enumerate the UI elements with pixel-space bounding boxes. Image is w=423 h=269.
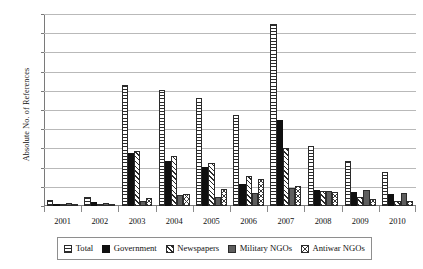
bar-group-2004: 2004: [156, 14, 193, 206]
legend-swatch-icon: [166, 245, 174, 253]
bar-antiwar-ngos-2010: [407, 201, 413, 206]
legend-label: Government: [114, 244, 157, 253]
bar-group-2008: 2008: [304, 14, 341, 206]
plot-wrapper: 500450400350300250200150100500 200120022…: [44, 14, 416, 206]
bars: [342, 14, 379, 206]
bar-chart: Absolute No. of References 5004504003503…: [0, 0, 423, 269]
x-tick-label-2008: 2008: [304, 217, 341, 226]
bar-antiwar-ngos-2008: [332, 192, 338, 206]
legend-label: Antiwar NGOs: [313, 244, 365, 253]
bar-group-2009: 2009: [342, 14, 379, 206]
bar-group-2006: 2006: [230, 14, 267, 206]
x-tick-sep: [230, 206, 231, 212]
x-tick-sep: [193, 206, 194, 212]
bar-group-2007: 2007: [267, 14, 304, 206]
legend-swatch-icon: [102, 245, 110, 253]
y-axis-title: Absolute No. of References: [22, 35, 31, 195]
x-tick-sep: [118, 206, 119, 212]
bars: [81, 14, 118, 206]
plot-area: 500450400350300250200150100500 200120022…: [44, 14, 416, 206]
legend-label: Military NGOs: [240, 244, 292, 253]
bar-antiwar-ngos-2006: [258, 179, 264, 206]
bar-antiwar-ngos-2002: [109, 204, 115, 206]
bars: [118, 14, 155, 206]
x-tick-label-2006: 2006: [230, 217, 267, 226]
legend-item-military-ngos[interactable]: Military NGOs: [228, 244, 292, 253]
x-tick-label-2002: 2002: [81, 217, 118, 226]
x-tick-sep: [156, 206, 157, 212]
bars: [230, 14, 267, 206]
bar-groups: 2001200220032004200520062007200820092010: [44, 14, 416, 206]
x-tick-sep: [415, 206, 416, 212]
bars: [304, 14, 341, 206]
bar-group-2005: 2005: [193, 14, 230, 206]
x-tick-label-2005: 2005: [193, 217, 230, 226]
x-tick-sep: [81, 206, 82, 212]
x-tick-label-2009: 2009: [342, 217, 379, 226]
bar-group-2001: 2001: [44, 14, 81, 206]
legend-item-antiwar-ngos[interactable]: Antiwar NGOs: [301, 244, 365, 253]
x-tick-label-2003: 2003: [118, 217, 155, 226]
x-tick-sep: [304, 206, 305, 212]
x-tick-sep: [267, 206, 268, 212]
x-tick-label-2004: 2004: [156, 217, 193, 226]
bar-group-2003: 2003: [118, 14, 155, 206]
legend-item-government[interactable]: Government: [102, 244, 156, 253]
chart-legend: TotalGovernmentNewspapersMilitary NGOsAn…: [57, 237, 372, 260]
legend-label: Newspapers: [177, 244, 219, 253]
legend-label: Total: [76, 244, 94, 253]
x-tick-sep: [44, 206, 45, 212]
x-tick-label-2001: 2001: [44, 217, 81, 226]
legend-swatch-icon: [228, 245, 236, 253]
bars: [267, 14, 304, 206]
bar-antiwar-ngos-2009: [370, 199, 376, 206]
bars: [44, 14, 81, 206]
legend-swatch-icon: [301, 245, 309, 253]
x-tick-sep: [379, 206, 380, 212]
bars: [193, 14, 230, 206]
legend-item-newspapers[interactable]: Newspapers: [166, 244, 220, 253]
legend-swatch-icon: [64, 245, 72, 253]
bars: [379, 14, 416, 206]
bar-antiwar-ngos-2007: [295, 186, 301, 206]
x-tick-label-2010: 2010: [379, 217, 416, 226]
bar-newspapers-2003: [134, 151, 140, 206]
bar-group-2010: 2010: [379, 14, 416, 206]
bar-antiwar-ngos-2004: [183, 194, 189, 206]
bar-group-2002: 2002: [81, 14, 118, 206]
x-tick-sep: [342, 206, 343, 212]
x-tick-label-2007: 2007: [267, 217, 304, 226]
bar-antiwar-ngos-2005: [221, 189, 227, 206]
legend-item-total[interactable]: Total: [64, 244, 93, 253]
bar-antiwar-ngos-2003: [146, 198, 152, 206]
bar-antiwar-ngos-2001: [72, 204, 78, 206]
bars: [156, 14, 193, 206]
